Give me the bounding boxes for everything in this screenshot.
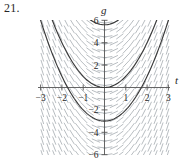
x-axis-label: t: [175, 74, 179, 86]
slope-segment: [123, 33, 129, 39]
slope-segment: [81, 34, 87, 40]
slope-segment: [136, 68, 140, 75]
slope-segment: [136, 144, 140, 151]
slope-segment: [160, 123, 163, 131]
slope-segment: [166, 60, 169, 68]
slope-segment: [154, 123, 157, 131]
slope-segment: [104, 70, 112, 71]
slope-segment: [110, 28, 117, 31]
slope-segment: [136, 137, 140, 144]
slope-segment: [41, 46, 44, 54]
slope-segment: [58, 144, 61, 151]
slope-segment: [41, 102, 44, 110]
slope-segment: [110, 139, 117, 142]
slope-segment: [154, 74, 157, 82]
y-tick-label: 4: [94, 38, 99, 48]
x-tick-label: 1: [123, 93, 128, 103]
slope-segment: [35, 81, 37, 89]
slope-segment: [92, 139, 100, 142]
slope-segment: [64, 33, 68, 40]
slope-segment: [58, 137, 61, 144]
slope-segment: [47, 74, 50, 82]
slope-segment: [104, 112, 112, 113]
slope-segment: [123, 110, 129, 116]
slope-segment: [104, 36, 112, 37]
slope-segment: [110, 56, 117, 59]
slope-segment: [70, 95, 74, 102]
slope-segment: [154, 130, 157, 138]
slope-segment: [35, 39, 37, 47]
slope-segment: [64, 68, 68, 75]
slope-segment: [129, 47, 134, 54]
slope-segment: [58, 123, 61, 130]
slope-segment: [160, 102, 163, 110]
slope-segment: [154, 33, 157, 41]
slope-segment: [110, 125, 117, 128]
slope-segment: [110, 42, 117, 45]
slope-segment: [76, 61, 81, 68]
slope-segment: [64, 123, 68, 130]
slope-segment: [166, 151, 169, 159]
x-tick-label: −2: [57, 93, 67, 103]
slope-segment: [47, 67, 50, 75]
slope-segment: [81, 138, 87, 144]
slope-segment: [110, 146, 117, 149]
slope-segment: [166, 33, 169, 41]
slope-segment: [136, 40, 140, 47]
slope-segment: [166, 123, 169, 131]
slope-segment: [129, 110, 134, 117]
slope-segment: [123, 124, 129, 130]
slope-segment: [41, 109, 44, 117]
slope-segment: [136, 123, 140, 130]
slope-segment: [47, 137, 50, 145]
slope-segment: [160, 144, 163, 152]
slope-segment: [110, 76, 117, 79]
slope-segment: [53, 123, 56, 131]
slope-segment: [154, 102, 157, 110]
slope-segment: [35, 46, 37, 54]
slope-segment: [53, 102, 56, 110]
slope-segment: [76, 26, 81, 33]
slope-segment: [136, 47, 140, 54]
slope-segment: [148, 137, 151, 144]
slope-segment: [81, 27, 87, 33]
slope-segment: [76, 40, 81, 47]
slope-segment: [160, 151, 163, 159]
slope-segment: [64, 109, 68, 116]
slope-segment: [41, 151, 44, 159]
x-tick-label: −1: [78, 93, 88, 103]
slope-segment: [142, 144, 146, 151]
slope-segment: [53, 67, 56, 75]
slope-segment: [35, 123, 37, 131]
slope-segment: [58, 130, 61, 137]
slope-segment: [136, 151, 140, 158]
slope-segment: [47, 53, 50, 61]
slope-segment: [166, 137, 169, 145]
slope-segment: [160, 88, 163, 96]
slope-segment: [110, 97, 117, 100]
slope-segment: [58, 19, 61, 26]
slope-segment: [64, 74, 68, 81]
slope-segment: [81, 61, 87, 67]
y-tick-label: 6: [94, 16, 99, 26]
slope-segment: [123, 145, 129, 151]
slope-segment: [41, 33, 44, 41]
slope-segment: [160, 130, 163, 138]
slope-segment: [166, 116, 169, 124]
slope-segment: [64, 151, 68, 158]
slope-segment: [35, 144, 37, 152]
slope-segment: [148, 19, 151, 26]
slope-segment: [142, 123, 146, 130]
slope-segment: [47, 19, 50, 27]
slope-segment: [154, 144, 157, 152]
slope-segment: [104, 140, 112, 141]
slope-segment: [58, 102, 61, 109]
slope-segment: [160, 19, 163, 27]
slope-segment: [148, 74, 151, 81]
slope-segment: [136, 130, 140, 137]
slope-segment: [166, 46, 169, 54]
slope-segment: [123, 40, 129, 46]
slope-segment: [81, 54, 87, 60]
slope-segment: [64, 26, 68, 33]
slope-segment: [41, 67, 44, 75]
